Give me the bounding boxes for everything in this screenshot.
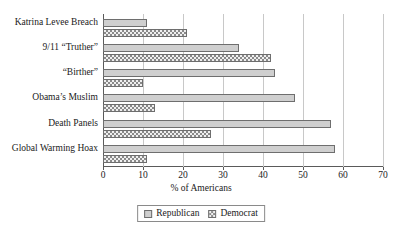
bar-republican <box>103 94 295 102</box>
category-label: “Birther” <box>0 67 98 78</box>
xtick-label: 50 <box>288 170 318 181</box>
category-label: 9/11 “Truther” <box>0 42 98 53</box>
bar-democrat <box>103 29 187 37</box>
category-label: Death Panels <box>0 118 98 129</box>
x-axis-title: % of Americans <box>0 183 402 194</box>
plot-area <box>103 14 383 167</box>
category-label: Katrina Levee Breach <box>0 17 98 28</box>
bar-republican <box>103 69 275 77</box>
xtick-label: 40 <box>248 170 278 181</box>
bar-democrat <box>103 155 147 163</box>
chart-legend: Republican Democrat <box>137 205 265 222</box>
xtick-label: 30 <box>208 170 238 181</box>
x-axis-line <box>103 166 383 167</box>
category-label: Global Warming Hoax <box>0 143 98 154</box>
gridline-60 <box>343 14 344 167</box>
bar-republican <box>103 44 239 52</box>
xtick-label: 10 <box>128 170 158 181</box>
bar-republican <box>103 19 147 27</box>
xtick-label: 70 <box>368 170 398 181</box>
bar-republican <box>103 145 335 153</box>
legend-swatch-republican-icon <box>144 210 152 218</box>
bar-democrat <box>103 79 143 87</box>
xtick-label: 20 <box>168 170 198 181</box>
bar-democrat <box>103 130 211 138</box>
legend-swatch-democrat-icon <box>208 210 216 218</box>
legend-label-republican: Republican <box>156 208 199 219</box>
category-label: Obama’s Muslim <box>0 92 98 103</box>
xtick-label: 0 <box>88 170 118 181</box>
xtick-label: 60 <box>328 170 358 181</box>
bar-democrat <box>103 54 271 62</box>
bar-republican <box>103 120 331 128</box>
legend-entry-republican: Republican <box>144 208 199 219</box>
bar-democrat <box>103 104 155 112</box>
chart-figure: Katrina Levee Breach 9/11 “Truther” “Bir… <box>0 0 402 234</box>
gridline-70 <box>383 14 384 167</box>
legend-entry-democrat: Democrat <box>208 208 257 219</box>
legend-label-democrat: Democrat <box>220 208 257 219</box>
